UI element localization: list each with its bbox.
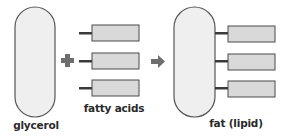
- glycerol-molecule: [15, 7, 55, 117]
- fatty-acid-1: [79, 25, 139, 41]
- fat-glycerol-backbone: [174, 7, 215, 117]
- right-arrow-icon: [151, 55, 165, 68]
- bound-fatty-acid-1: [215, 26, 275, 42]
- bound-fatty-acid-2: [215, 54, 275, 70]
- fatty-acid-2: [79, 53, 139, 69]
- fatty-acid-3: [79, 80, 139, 96]
- fatty-acids-label: fatty acids: [84, 102, 145, 114]
- bound-fatty-acid-3: [215, 81, 275, 97]
- plus-icon: [61, 54, 74, 67]
- fat-lipid-label: fat (lipid): [209, 117, 263, 129]
- glycerol-label: glycerol: [13, 119, 59, 131]
